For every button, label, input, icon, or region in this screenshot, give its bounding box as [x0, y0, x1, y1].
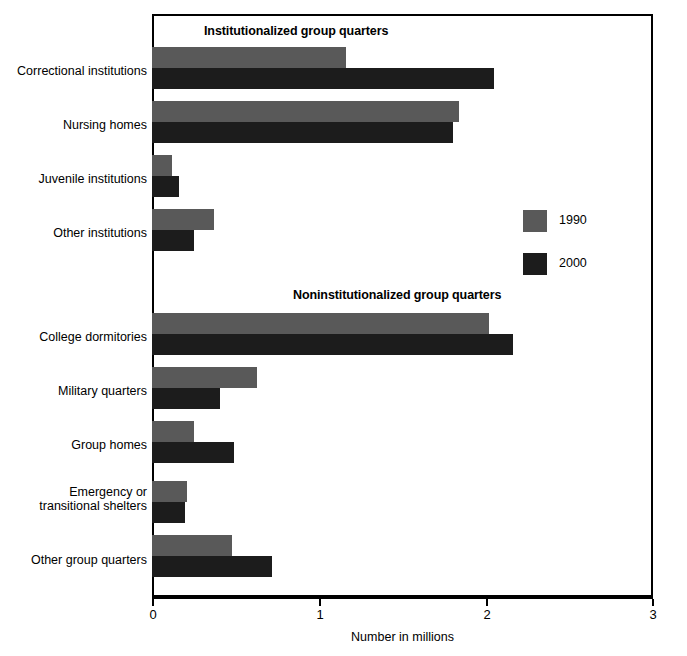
x-tick-0	[152, 599, 154, 606]
bar-group-homes-1990	[152, 421, 194, 442]
bar-military-quarters-1990	[152, 367, 257, 388]
category-label-military-quarters: Military quarters	[0, 384, 147, 398]
section-heading-institutionalized: Institutionalized group quarters	[204, 24, 388, 38]
bar-other-institutions-2000	[152, 230, 194, 251]
legend-swatch-1990-icon	[523, 210, 547, 232]
bar-correctional-institutions-1990	[152, 47, 346, 68]
category-label-other-institutions: Other institutions	[0, 226, 147, 240]
chart-figure: Institutionalized group quarters Noninst…	[0, 0, 687, 656]
category-label-shelters: Emergency or transitional shelters	[0, 485, 147, 513]
x-axis-title: Number in millions	[152, 630, 653, 644]
bar-other-group-quarters-2000	[152, 556, 272, 577]
x-tick-label-2: 2	[467, 607, 507, 622]
x-tick-1	[319, 599, 321, 606]
bar-college-dormitories-2000	[152, 334, 513, 355]
bar-juvenile-institutions-2000	[152, 176, 179, 197]
bar-shelters-1990	[152, 481, 187, 502]
bar-nursing-homes-1990	[152, 101, 459, 122]
bar-correctional-institutions-2000	[152, 68, 494, 89]
category-label-nursing-homes: Nursing homes	[0, 118, 147, 132]
x-tick-label-1: 1	[300, 607, 340, 622]
category-label-shelters-line1: Emergency or	[0, 485, 147, 499]
bar-shelters-2000	[152, 502, 185, 523]
bar-group-homes-2000	[152, 442, 234, 463]
bar-other-institutions-1990	[152, 209, 214, 230]
x-tick-label-3: 3	[633, 607, 673, 622]
category-label-correctional-institutions: Correctional institutions	[0, 64, 147, 78]
bar-military-quarters-2000	[152, 388, 220, 409]
x-tick-label-0: 0	[133, 607, 173, 622]
legend-label-1990: 1990	[559, 213, 587, 227]
category-label-other-group-quarters: Other group quarters	[0, 553, 147, 567]
bar-college-dormitories-1990	[152, 313, 489, 334]
x-tick-2	[486, 599, 488, 606]
category-label-shelters-line2: transitional shelters	[0, 499, 147, 513]
section-heading-noninstitutionalized: Noninstitutionalized group quarters	[293, 288, 501, 302]
category-label-juvenile-institutions: Juvenile institutions	[0, 172, 147, 186]
legend-label-2000: 2000	[559, 256, 587, 270]
x-tick-3	[652, 599, 654, 606]
bar-nursing-homes-2000	[152, 122, 453, 143]
bar-other-group-quarters-1990	[152, 535, 232, 556]
category-label-group-homes: Group homes	[0, 438, 147, 452]
bar-juvenile-institutions-1990	[152, 155, 172, 176]
category-label-college-dormitories: College dormitories	[0, 330, 147, 344]
legend-swatch-2000-icon	[523, 253, 547, 275]
x-axis-line	[152, 597, 653, 599]
